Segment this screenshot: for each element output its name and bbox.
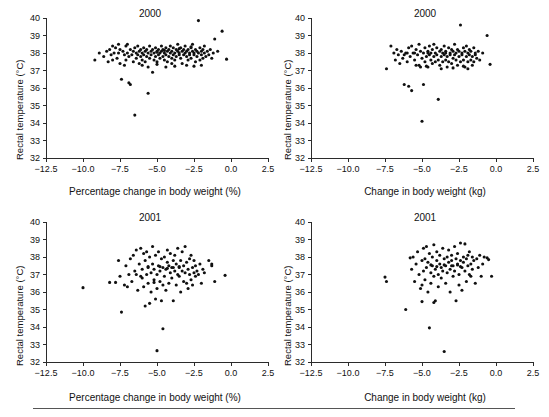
svg-text:35: 35 [30, 101, 40, 111]
svg-text:40: 40 [295, 217, 305, 227]
x-axis-label-bottom-right: Change in body weight (kg) [305, 392, 545, 403]
panel-bottom-left: 2001 Rectal temperature (°C) 32333435363… [0, 204, 275, 414]
svg-text:−12.5: −12.5 [35, 164, 58, 174]
svg-text:32: 32 [30, 153, 40, 163]
svg-text:−2.5: −2.5 [450, 164, 468, 174]
svg-text:−5.0: −5.0 [413, 164, 431, 174]
svg-text:−10.0: −10.0 [337, 368, 360, 378]
plot-area-bottom-right: 323334353637383940−12.5−10.0−7.5−5.0−2.5… [270, 204, 549, 386]
svg-text:−7.5: −7.5 [376, 164, 394, 174]
svg-text:33: 33 [295, 340, 305, 350]
svg-text:36: 36 [30, 83, 40, 93]
svg-text:−2.5: −2.5 [185, 368, 203, 378]
svg-text:−7.5: −7.5 [111, 368, 129, 378]
svg-text:35: 35 [295, 305, 305, 315]
panel-bottom-right: 2001 Rectal temperature (°C) 32333435363… [270, 204, 549, 414]
svg-text:−5.0: −5.0 [148, 368, 166, 378]
svg-text:32: 32 [295, 153, 305, 163]
x-axis-label-top-right: Change in body weight (kg) [305, 186, 545, 197]
svg-text:−10.0: −10.0 [72, 164, 95, 174]
svg-text:37: 37 [30, 66, 40, 76]
svg-text:−10.0: −10.0 [337, 164, 360, 174]
svg-text:38: 38 [295, 252, 305, 262]
svg-text:39: 39 [295, 31, 305, 41]
figure-scatter-matrix: 2000 Rectal temperature (°C) 32333435363… [0, 0, 549, 417]
svg-text:−2.5: −2.5 [450, 368, 468, 378]
svg-text:−7.5: −7.5 [376, 368, 394, 378]
x-axis-label-bottom-left: Percentage change in body weight (%) [30, 392, 280, 403]
svg-text:33: 33 [30, 340, 40, 350]
svg-text:−2.5: −2.5 [185, 164, 203, 174]
svg-text:35: 35 [30, 305, 40, 315]
svg-text:36: 36 [295, 287, 305, 297]
svg-text:36: 36 [30, 287, 40, 297]
svg-text:0.0: 0.0 [225, 368, 238, 378]
svg-text:−5.0: −5.0 [413, 368, 431, 378]
svg-text:40: 40 [295, 13, 305, 23]
svg-text:34: 34 [30, 118, 40, 128]
svg-text:37: 37 [295, 270, 305, 280]
svg-text:38: 38 [30, 252, 40, 262]
svg-text:2.5: 2.5 [527, 368, 540, 378]
panel-top-right: 2000 Rectal temperature (°C) 32333435363… [270, 0, 549, 208]
svg-text:0.0: 0.0 [490, 368, 503, 378]
svg-text:39: 39 [30, 235, 40, 245]
svg-text:38: 38 [295, 48, 305, 58]
svg-text:40: 40 [30, 217, 40, 227]
svg-text:34: 34 [295, 322, 305, 332]
svg-text:39: 39 [30, 31, 40, 41]
svg-text:36: 36 [295, 83, 305, 93]
footer-divider-rule [33, 408, 515, 409]
svg-text:−7.5: −7.5 [111, 164, 129, 174]
svg-text:2.5: 2.5 [527, 164, 540, 174]
svg-text:32: 32 [295, 357, 305, 367]
svg-text:34: 34 [30, 322, 40, 332]
svg-text:37: 37 [295, 66, 305, 76]
plot-area-bottom-left: 323334353637383940−12.5−10.0−7.5−5.0−2.5… [0, 204, 275, 386]
svg-text:0.0: 0.0 [225, 164, 238, 174]
svg-text:40: 40 [30, 13, 40, 23]
svg-text:33: 33 [30, 136, 40, 146]
svg-text:32: 32 [30, 357, 40, 367]
svg-text:33: 33 [295, 136, 305, 146]
svg-text:−10.0: −10.0 [72, 368, 95, 378]
svg-text:34: 34 [295, 118, 305, 128]
svg-text:−12.5: −12.5 [300, 164, 323, 174]
svg-text:−12.5: −12.5 [300, 368, 323, 378]
svg-text:−5.0: −5.0 [148, 164, 166, 174]
svg-text:37: 37 [30, 270, 40, 280]
plot-area-top-right: 323334353637383940−12.5−10.0−7.5−5.0−2.5… [270, 0, 549, 180]
svg-text:−12.5: −12.5 [35, 368, 58, 378]
svg-text:39: 39 [295, 235, 305, 245]
plot-area-top-left: 323334353637383940−12.5−10.0−7.5−5.0−2.5… [0, 0, 275, 180]
x-axis-label-top-left: Percentage change in body weight (%) [30, 186, 280, 197]
panel-top-left: 2000 Rectal temperature (°C) 32333435363… [0, 0, 275, 208]
svg-text:38: 38 [30, 48, 40, 58]
svg-text:0.0: 0.0 [490, 164, 503, 174]
svg-text:35: 35 [295, 101, 305, 111]
